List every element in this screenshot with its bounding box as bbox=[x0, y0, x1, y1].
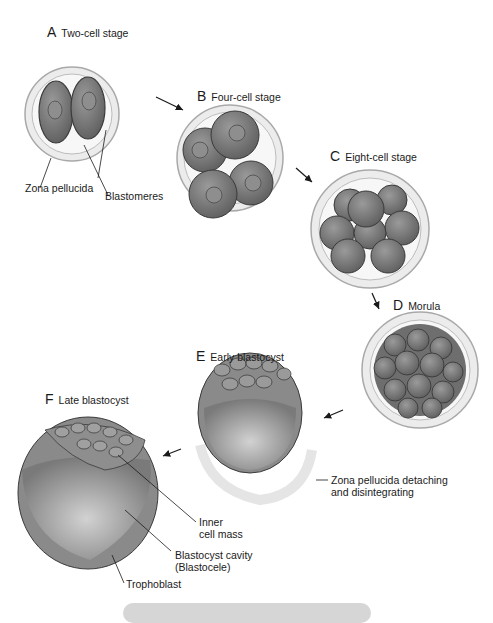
label-line: Blastocyst cavity bbox=[175, 549, 253, 561]
stage-label-b: BFour-cell stage bbox=[197, 88, 281, 104]
stage-letter: D bbox=[393, 297, 403, 313]
label-line: Inner bbox=[199, 516, 243, 528]
stage-letter: F bbox=[45, 391, 54, 407]
caption-bar bbox=[123, 603, 371, 623]
label-line: (Blastocele) bbox=[175, 561, 253, 573]
early-blastocyst bbox=[198, 353, 312, 500]
label-line: and disintegrating bbox=[331, 486, 448, 498]
nucleus bbox=[48, 101, 62, 119]
stage-letter: A bbox=[47, 24, 56, 40]
eight-cell-embryo bbox=[311, 170, 429, 288]
arrow-d-to-e bbox=[324, 410, 343, 418]
label-inner-cell-mass: Inner cell mass bbox=[199, 516, 243, 540]
two-cell-embryo bbox=[25, 67, 119, 195]
label-line: cell mass bbox=[199, 528, 243, 540]
label-line: Zona pellucida detaching bbox=[331, 474, 448, 486]
stage-name: Four-cell stage bbox=[211, 91, 280, 103]
arrow-c-to-d bbox=[372, 293, 379, 309]
stage-name: Two-cell stage bbox=[61, 27, 128, 39]
stage-name: Eight-cell stage bbox=[345, 151, 417, 163]
stage-label-e: EEarly blastocyst bbox=[196, 348, 284, 364]
nucleus bbox=[82, 92, 96, 110]
stage-name: Late blastocyst bbox=[59, 394, 129, 406]
stage-letter: B bbox=[197, 88, 206, 104]
stage-label-a: ATwo-cell stage bbox=[47, 24, 128, 40]
stage-label-c: CEight-cell stage bbox=[330, 148, 417, 164]
label-zona-pellucida: Zona pellucida bbox=[25, 182, 93, 194]
morula-embryo bbox=[362, 312, 478, 428]
arrow-b-to-c bbox=[296, 168, 312, 182]
label-trophoblast: Trophoblast bbox=[126, 578, 181, 590]
label-blastocyst-cavity: Blastocyst cavity (Blastocele) bbox=[175, 549, 253, 573]
stage-name: Early blastocyst bbox=[210, 351, 284, 363]
stage-label-d: DMorula bbox=[393, 297, 440, 313]
stage-label-f: FLate blastocyst bbox=[45, 391, 129, 407]
four-cell-embryo bbox=[177, 105, 283, 218]
late-blastocyst bbox=[18, 417, 196, 583]
stage-name: Morula bbox=[408, 300, 440, 312]
label-blastomeres: Blastomeres bbox=[105, 190, 163, 202]
label-zona-detaching: Zona pellucida detaching and disintegrat… bbox=[331, 474, 448, 498]
arrow-e-to-f bbox=[163, 449, 181, 456]
stage-letter: E bbox=[196, 348, 205, 364]
arrow-a-to-b bbox=[156, 97, 183, 110]
stage-letter: C bbox=[330, 148, 340, 164]
